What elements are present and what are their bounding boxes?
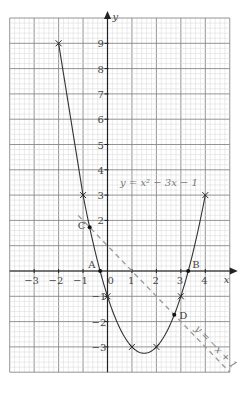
y-tick-label: 8 xyxy=(98,64,104,75)
point-label-c: C xyxy=(78,220,86,231)
y-tick-label: 5 xyxy=(98,140,104,151)
tick-labels: −3−2−10123498765432−1−2−3 xyxy=(24,38,208,353)
y-tick-label: 3 xyxy=(98,190,104,201)
x-tick-label: −3 xyxy=(24,275,39,286)
x-tick-label: −1 xyxy=(73,275,88,286)
y-tick-label: 4 xyxy=(98,165,104,176)
y-tick-label: 9 xyxy=(98,38,104,49)
y-tick-label: 7 xyxy=(98,89,104,100)
y-tick-label: −3 xyxy=(92,342,107,353)
point-marker xyxy=(172,313,176,317)
x-tick-label: 1 xyxy=(128,275,134,286)
graph: xy −3−2−10123498765432−1−2−3 y = x² − 3x… xyxy=(0,0,244,397)
x-axis-label: x xyxy=(224,274,230,285)
point-label-a: A xyxy=(87,259,96,270)
x-tick-label: 4 xyxy=(201,275,207,286)
y-axis-arrow-icon xyxy=(104,11,111,19)
line-equation-label: y = −x + 1 xyxy=(192,322,239,370)
y-tick-label: 2 xyxy=(98,215,104,226)
point-marker xyxy=(88,225,92,229)
curve-equation-label: y = x² − 3x − 1 xyxy=(119,177,198,188)
y-tick-label: −2 xyxy=(92,317,107,328)
point-label-d: D xyxy=(179,310,187,321)
y-tick-label: −1 xyxy=(92,291,107,302)
y-axis-label: y xyxy=(112,11,119,22)
x-axis-arrow-icon xyxy=(230,268,238,275)
grid xyxy=(10,18,230,372)
point-label-b: B xyxy=(192,259,199,270)
y-tick-label: 6 xyxy=(98,114,104,125)
point-marker xyxy=(186,269,190,273)
x-tick-label: 2 xyxy=(152,275,158,286)
x-tick-label: 3 xyxy=(177,275,183,286)
x-tick-label: −2 xyxy=(49,275,64,286)
x-tick-label: 0 xyxy=(108,275,114,286)
point-marker xyxy=(98,269,102,273)
